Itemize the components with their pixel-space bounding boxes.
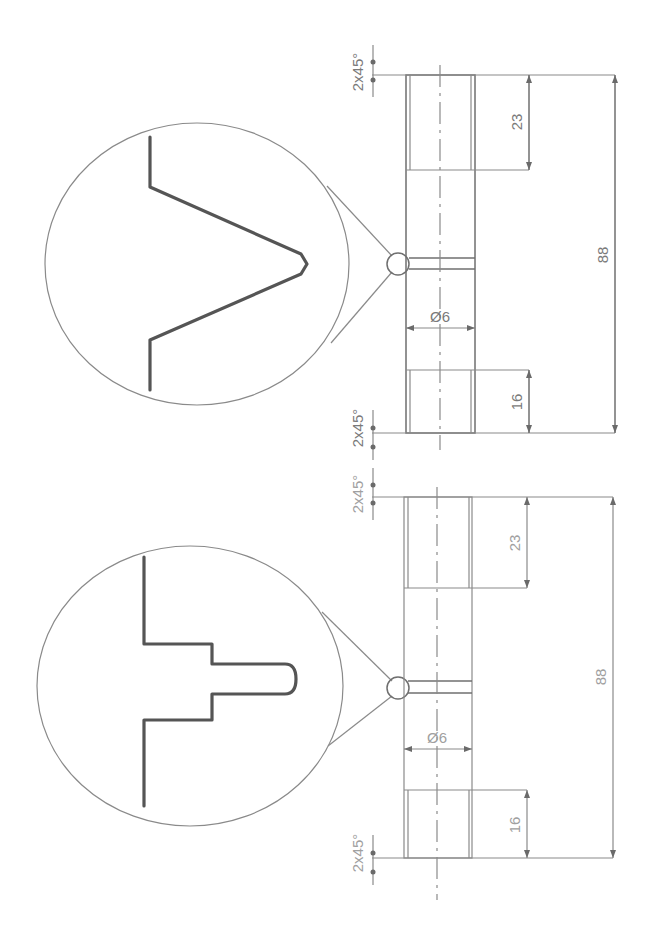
drawing-view-v-notch: 2x45° 2x45° 23 16 88 Ø6	[45, 45, 618, 460]
dimension-arrow	[524, 580, 530, 588]
dimension-arrow	[526, 370, 532, 378]
dimension-arrow	[371, 870, 376, 875]
dimension-arrow	[404, 746, 412, 752]
detail-magnifier-circle	[37, 546, 343, 826]
dimension-arrow	[524, 850, 530, 858]
diameter-label: Ø6	[430, 308, 450, 325]
dimension-arrow	[524, 790, 530, 798]
dimension-arrow	[371, 851, 376, 856]
dimension-arrow	[526, 162, 532, 170]
chamfer-top-label: 2x45°	[349, 53, 366, 92]
top-section-length-label: 23	[506, 535, 523, 552]
chamfer-top-label: 2x45°	[349, 475, 366, 514]
bottom-section-length-label: 16	[508, 394, 525, 411]
shaft-outline	[404, 497, 472, 858]
chamfer-bottom-label: 2x45°	[349, 409, 366, 448]
dimension-arrow	[612, 75, 618, 83]
v-notch-profile	[150, 137, 307, 390]
detail-magnifier-circle	[45, 123, 349, 405]
dimension-arrow	[526, 425, 532, 433]
chamfer-bottom-label: 2x45°	[349, 834, 366, 873]
stepped-groove-profile	[144, 557, 296, 806]
top-section-length-label: 23	[508, 114, 525, 131]
engineering-drawing-canvas: 2x45° 2x45° 23 16 88 Ø6	[0, 0, 649, 950]
dimension-arrow	[526, 75, 532, 83]
dimension-arrow	[371, 445, 376, 450]
detail-leader-line	[327, 186, 392, 256]
detail-leader-line	[331, 272, 392, 343]
dimension-arrow	[467, 325, 475, 331]
dimension-arrow	[371, 78, 376, 83]
dimension-arrow	[371, 60, 376, 65]
overall-length-label: 88	[594, 247, 611, 264]
dimension-arrow	[610, 497, 616, 505]
overall-length-label: 88	[592, 669, 609, 686]
diameter-label: Ø6	[427, 729, 447, 746]
dimension-arrow	[610, 850, 616, 858]
dimension-arrow	[371, 426, 376, 431]
dimension-arrow	[612, 425, 618, 433]
dimension-arrow	[371, 483, 376, 488]
detail-marker-circle	[387, 677, 409, 699]
dimension-arrow	[464, 746, 472, 752]
bottom-section-length-label: 16	[506, 817, 523, 834]
dimension-arrow	[406, 325, 414, 331]
detail-leader-line	[322, 612, 392, 681]
dimension-arrow	[524, 497, 530, 505]
dimension-arrow	[371, 501, 376, 506]
drawing-view-stepped-groove: 2x45° 2x45° 23 16 88 Ø6	[37, 468, 616, 900]
